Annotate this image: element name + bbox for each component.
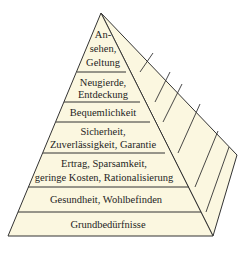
level-4-line-2: Zuverlässigkeit, Garantie [50,139,156,150]
level-3-line-1: Bequemlichkeit [70,107,137,118]
level-1-line-1: An- [95,29,112,40]
level-4-line-1: Sicherheit, [80,126,125,137]
level-2-line-1: Neugierde, [80,77,126,88]
level-6-line-1: Gesundheit, Wohlbefinden [50,194,163,205]
level-2-line-2: Entdeckung [78,89,129,100]
level-7-line-1: Grundbedürfnisse [70,219,146,230]
level-5-line-1: Ertrag, Sparsamkeit, [61,158,147,169]
level-1-line-2: sehen, [90,43,117,54]
pyramid-diagram: An- sehen, Geltung Neugierde, Entdeckung… [0,0,249,255]
level-5-line-2: geringe Kosten, Rationalisierung [35,172,174,183]
level-1-line-3: Geltung [86,57,121,68]
